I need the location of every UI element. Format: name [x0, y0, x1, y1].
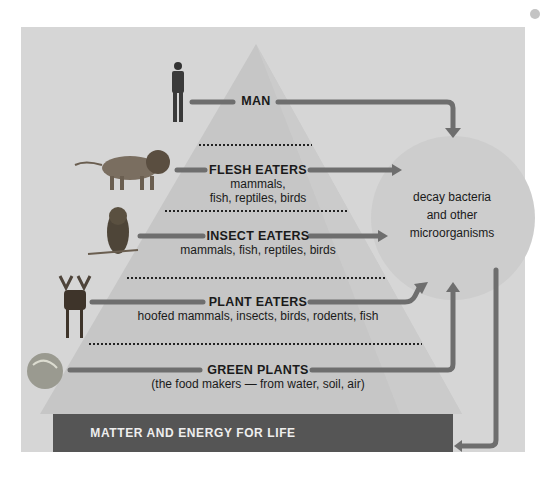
- level-title: FLESH EATERS: [196, 163, 320, 177]
- level-subtitle: mammals, fish, reptiles, birds: [160, 243, 356, 257]
- decomposers-label: decay bacteria and other microorganisms: [400, 188, 504, 242]
- decomposers-line: microorganisms: [400, 224, 504, 242]
- level-title: MAN: [225, 94, 287, 108]
- owl-icon: [88, 207, 138, 254]
- decomposers-line: and other: [400, 206, 504, 224]
- level-title: GREEN PLANTS: [130, 363, 386, 377]
- level-title: PLANT EATERS: [110, 295, 406, 309]
- level-subtitle: hoofed mammals, insects, birds, rodents,…: [110, 309, 406, 323]
- level-subtitle: fish, reptiles, birds: [196, 191, 320, 205]
- level-plant-eaters: PLANT EATERS hoofed mammals, insects, bi…: [110, 295, 406, 323]
- level-flesh-eaters: FLESH EATERS mammals, fish, reptiles, bi…: [196, 163, 320, 205]
- base-label: MATTER AND ENERGY FOR LIFE: [53, 414, 333, 452]
- level-subtitle: mammals,: [196, 177, 320, 191]
- level-man: MAN: [225, 94, 287, 108]
- man-icon: [172, 62, 184, 122]
- moose-icon: [60, 276, 90, 338]
- level-insect-eaters: INSECT EATERS mammals, fish, reptiles, b…: [160, 229, 356, 257]
- level-title: INSECT EATERS: [160, 229, 356, 243]
- decomposers-line: decay bacteria: [400, 188, 504, 206]
- cabbage-icon: [27, 353, 63, 389]
- level-green-plants: GREEN PLANTS (the food makers — from wat…: [130, 363, 386, 391]
- lion-icon: [75, 150, 170, 190]
- level-subtitle: (the food makers — from water, soil, air…: [130, 377, 386, 391]
